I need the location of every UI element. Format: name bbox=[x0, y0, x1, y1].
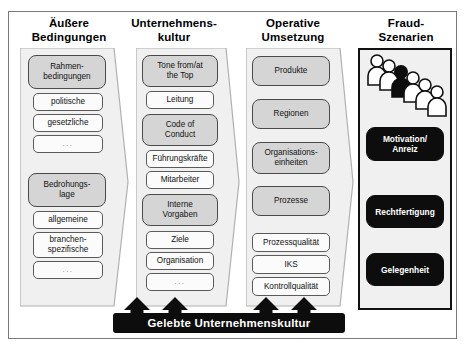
node-label-line-1: branchen- bbox=[50, 235, 87, 244]
header-line-2: Umsetzung bbox=[240, 31, 346, 45]
header-line-1: Operative bbox=[240, 17, 346, 31]
node-label-line-2: einheiten bbox=[274, 158, 307, 167]
node-regionen[interactable]: Regionen bbox=[252, 99, 330, 129]
node-label: Gelegenheit bbox=[381, 265, 429, 275]
node-label: branchen- spezifische bbox=[48, 235, 89, 254]
node-iks[interactable]: IKS bbox=[252, 255, 330, 274]
header-line-1: Fraud- bbox=[356, 17, 456, 31]
node-label: Regionen bbox=[273, 109, 308, 119]
node-aussere-ellipsis-1[interactable]: ... bbox=[33, 135, 103, 153]
node-label: Rechtfertigung bbox=[375, 207, 435, 217]
node-label-line-1: Rahmen- bbox=[50, 62, 84, 71]
node-interne-vorgaben[interactable]: Interne Vorgaben bbox=[142, 194, 218, 226]
node-unternehmenskultur-ellipsis[interactable]: ... bbox=[146, 273, 214, 291]
node-label: ... bbox=[175, 277, 186, 287]
node-label-line-2: Conduct bbox=[165, 130, 196, 139]
node-label: allgemeine bbox=[48, 215, 88, 225]
node-allgemeine[interactable]: allgemeine bbox=[33, 211, 103, 229]
column-header-fraud-szenarien: Fraud- Szenarien bbox=[356, 17, 456, 44]
people-row-icon bbox=[364, 52, 448, 118]
bottom-bar-label: Gelebte Unternehmenskultur bbox=[147, 317, 310, 329]
node-label-line-2: spezifische bbox=[48, 245, 89, 254]
header-line-1: Unternehmens- bbox=[118, 17, 230, 31]
node-politische[interactable]: politische bbox=[33, 93, 103, 111]
node-label-line-2: the Top bbox=[167, 71, 194, 80]
header-line-2: kultur bbox=[118, 31, 230, 45]
header-line-2: Bedingungen bbox=[16, 31, 122, 45]
node-organisationseinheiten[interactable]: Organisations- einheiten bbox=[252, 142, 330, 174]
node-label-line-1: Motivation/ bbox=[383, 134, 427, 144]
diagram-canvas: Äußere Bedingungen Unternehmens- kultur … bbox=[0, 0, 467, 350]
header-line-2: Szenarien bbox=[356, 31, 456, 45]
bottom-bar-gelebte-unternehmenskultur: Gelebte Unternehmenskultur bbox=[113, 313, 345, 333]
node-label: Mitarbeiter bbox=[161, 175, 200, 185]
node-label: Produkte bbox=[275, 66, 308, 76]
node-label: Prozessqualität bbox=[263, 238, 319, 248]
node-motivation-anreiz[interactable]: Motivation/ Anreiz bbox=[366, 127, 444, 161]
node-label: ... bbox=[63, 139, 74, 149]
node-branchenspezifische[interactable]: branchen- spezifische bbox=[33, 232, 103, 258]
column-header-aussere-bedingungen: Äußere Bedingungen bbox=[16, 17, 122, 44]
node-aussere-ellipsis-2[interactable]: ... bbox=[33, 261, 103, 279]
node-rechtfertigung[interactable]: Rechtfertigung bbox=[366, 195, 444, 228]
node-tone-from-at-the-top[interactable]: Tone from/at the Top bbox=[142, 55, 218, 87]
node-bedrohungslage[interactable]: Bedrohungs- lage bbox=[28, 173, 106, 207]
node-mitarbeiter[interactable]: Mitarbeiter bbox=[146, 171, 214, 189]
column-header-operative-umsetzung: Operative Umsetzung bbox=[240, 17, 346, 44]
node-label-line-2: bedingungen bbox=[43, 72, 90, 81]
node-label: Tone from/at the Top bbox=[157, 61, 203, 80]
node-label: Ziele bbox=[171, 235, 189, 245]
node-code-of-conduct[interactable]: Code of Conduct bbox=[142, 114, 218, 146]
node-prozessqualitaet[interactable]: Prozessqualität bbox=[252, 233, 330, 252]
node-label: Motivation/ Anreiz bbox=[383, 134, 427, 154]
node-fuehrungskraefte[interactable]: Führungskräfte bbox=[146, 150, 214, 168]
node-gesetzliche[interactable]: gesetzliche bbox=[33, 114, 103, 132]
node-label: Organisation bbox=[157, 256, 203, 266]
node-leitung[interactable]: Leitung bbox=[146, 91, 214, 109]
node-prozesse[interactable]: Prozesse bbox=[252, 186, 330, 216]
node-kontrollqualitaet[interactable]: Kontrollqualität bbox=[252, 277, 330, 296]
node-label-line-1: Bedrohungs- bbox=[44, 180, 91, 189]
node-label: Führungskräfte bbox=[152, 154, 207, 164]
node-label-line-2: lage bbox=[59, 190, 74, 199]
node-ziele[interactable]: Ziele bbox=[146, 231, 214, 249]
node-label-line-2: Vorgaben bbox=[162, 210, 197, 219]
node-rahmenbedingungen[interactable]: Rahmen- bedingungen bbox=[28, 55, 106, 89]
node-label: IKS bbox=[284, 260, 297, 270]
node-label: Kontrollqualität bbox=[264, 282, 318, 292]
node-label-line-1: Organisations- bbox=[264, 148, 317, 157]
node-label: ... bbox=[63, 265, 74, 275]
node-label-line-1: Code of bbox=[166, 120, 195, 129]
node-label: Interne Vorgaben bbox=[162, 200, 197, 219]
node-label: politische bbox=[51, 97, 85, 107]
node-label: Prozesse bbox=[274, 196, 308, 206]
node-label-line-1: Tone from/at bbox=[157, 61, 203, 70]
node-label-line-2: Anreiz bbox=[392, 144, 418, 154]
node-produkte[interactable]: Produkte bbox=[252, 56, 330, 86]
header-line-1: Äußere bbox=[16, 17, 122, 31]
node-label: Rahmen- bedingungen bbox=[43, 62, 90, 81]
node-label: gesetzliche bbox=[48, 118, 89, 128]
node-label: Leitung bbox=[167, 95, 194, 105]
node-label: Organisations- einheiten bbox=[264, 148, 317, 167]
node-label-line-1: Interne bbox=[167, 200, 193, 209]
column-header-unternehmenskultur: Unternehmens- kultur bbox=[118, 17, 230, 44]
node-gelegenheit[interactable]: Gelegenheit bbox=[366, 253, 444, 286]
node-label: Bedrohungs- lage bbox=[44, 180, 91, 199]
node-organisation[interactable]: Organisation bbox=[146, 252, 214, 270]
node-label: Code of Conduct bbox=[165, 120, 196, 139]
